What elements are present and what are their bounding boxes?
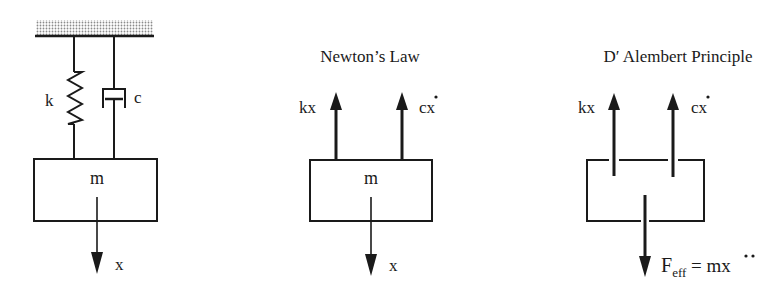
mass-label: m <box>364 168 378 188</box>
damper-label: c <box>134 88 142 107</box>
damper-force-arrow-icon <box>396 92 408 160</box>
spring-force-arrow-icon <box>608 93 620 176</box>
spring-label: k <box>45 91 54 110</box>
inertia-force-arrow-icon <box>639 195 651 277</box>
mass-spring-damper-system: k c m x <box>34 20 157 274</box>
velocity-dot-icon <box>706 95 709 98</box>
vibration-diagram: k c m x Newton’s Law kx cx <box>0 0 784 300</box>
damper-icon <box>103 36 125 159</box>
displacement-arrow-icon <box>365 197 377 276</box>
spring-force-arrow-icon <box>330 92 342 160</box>
damper-force-label: cx <box>419 98 436 117</box>
spring-force-label: kx <box>578 98 596 117</box>
acceleration-dot-icon <box>751 254 754 257</box>
velocity-dot-icon <box>434 95 437 98</box>
displacement-label: x <box>115 255 124 274</box>
mass-label: m <box>90 168 104 188</box>
displacement-label: x <box>389 256 398 275</box>
newton-free-body-diagram: Newton’s Law kx cx m x <box>299 47 438 276</box>
displacement-arrow-icon <box>91 197 103 274</box>
dalembert-free-body-diagram: D′ Alembert Principle kx cx Feff = mx <box>578 47 755 280</box>
damper-force-arrow-icon <box>667 93 679 177</box>
dalembert-title: D′ Alembert Principle <box>603 47 752 66</box>
inertia-force-label: Feff = mx <box>661 254 731 280</box>
acceleration-dot-icon <box>744 254 747 257</box>
spring-force-label: kx <box>299 98 317 117</box>
spring-icon <box>68 36 82 159</box>
fixed-support-hatch <box>36 20 153 35</box>
newton-title: Newton’s Law <box>320 47 420 66</box>
damper-force-label: cx <box>691 98 708 117</box>
